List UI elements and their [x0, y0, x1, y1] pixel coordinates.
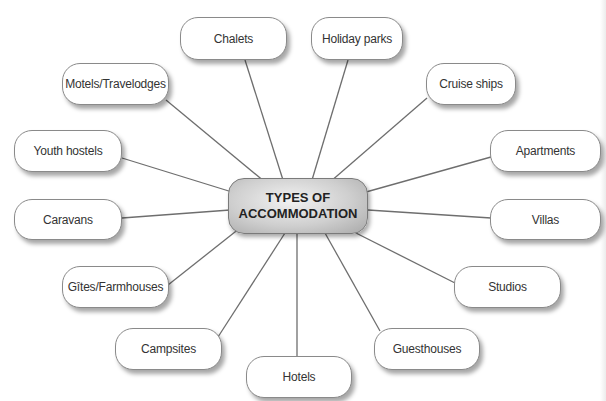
connector-cruise-ships — [330, 98, 427, 182]
connector-villas — [368, 210, 491, 218]
node-villas: Villas — [490, 199, 601, 240]
node-label: Holiday parks — [322, 32, 392, 46]
node-cruise-ships: Cruise ships — [426, 63, 516, 105]
node-guesthouses: Guesthouses — [374, 328, 480, 370]
node-label: Cruise ships — [439, 77, 503, 91]
node-label: Villas — [532, 213, 559, 227]
center-title-line2: ACCOMMODATION — [239, 206, 358, 222]
connector-campsites — [218, 233, 285, 337]
connector-motels — [166, 100, 265, 182]
node-label: Hotels — [283, 370, 316, 384]
connector-gites — [168, 228, 240, 285]
node-motels-travelodges: Motels/Travelodges — [62, 63, 169, 105]
connector-apartments — [366, 157, 491, 192]
connector-youth-hostels — [122, 158, 232, 192]
connector-guesthouses — [325, 233, 380, 331]
node-apartments: Apartments — [490, 130, 601, 172]
node-label: Caravans — [43, 213, 93, 227]
node-caravans: Caravans — [14, 199, 122, 240]
center-node-types-of-accommodation: TYPES OF ACCOMMODATION — [228, 178, 368, 234]
connector-chalets — [245, 60, 283, 180]
node-label: Motels/Travelodges — [65, 77, 166, 91]
node-label: Gîtes/Farmhouses — [68, 280, 164, 294]
node-holiday-parks: Holiday parks — [311, 17, 403, 60]
center-title-line1: TYPES OF — [266, 190, 330, 206]
node-gites-farmhouses: Gîtes/Farmhouses — [62, 266, 169, 308]
node-label: Guesthouses — [393, 342, 462, 356]
connector-caravans — [122, 210, 230, 218]
connector-holiday-parks — [312, 60, 348, 180]
node-label: Apartments — [516, 144, 575, 158]
node-label: Campsites — [141, 342, 196, 356]
node-campsites: Campsites — [115, 328, 222, 370]
node-youth-hostels: Youth hostels — [14, 130, 122, 172]
connector-studios — [350, 230, 455, 283]
node-hotels: Hotels — [246, 356, 352, 398]
node-label: Chalets — [214, 32, 253, 46]
node-chalets: Chalets — [180, 17, 287, 60]
node-label: Youth hostels — [33, 144, 102, 158]
node-studios: Studios — [454, 266, 561, 308]
node-label: Studios — [488, 280, 527, 294]
